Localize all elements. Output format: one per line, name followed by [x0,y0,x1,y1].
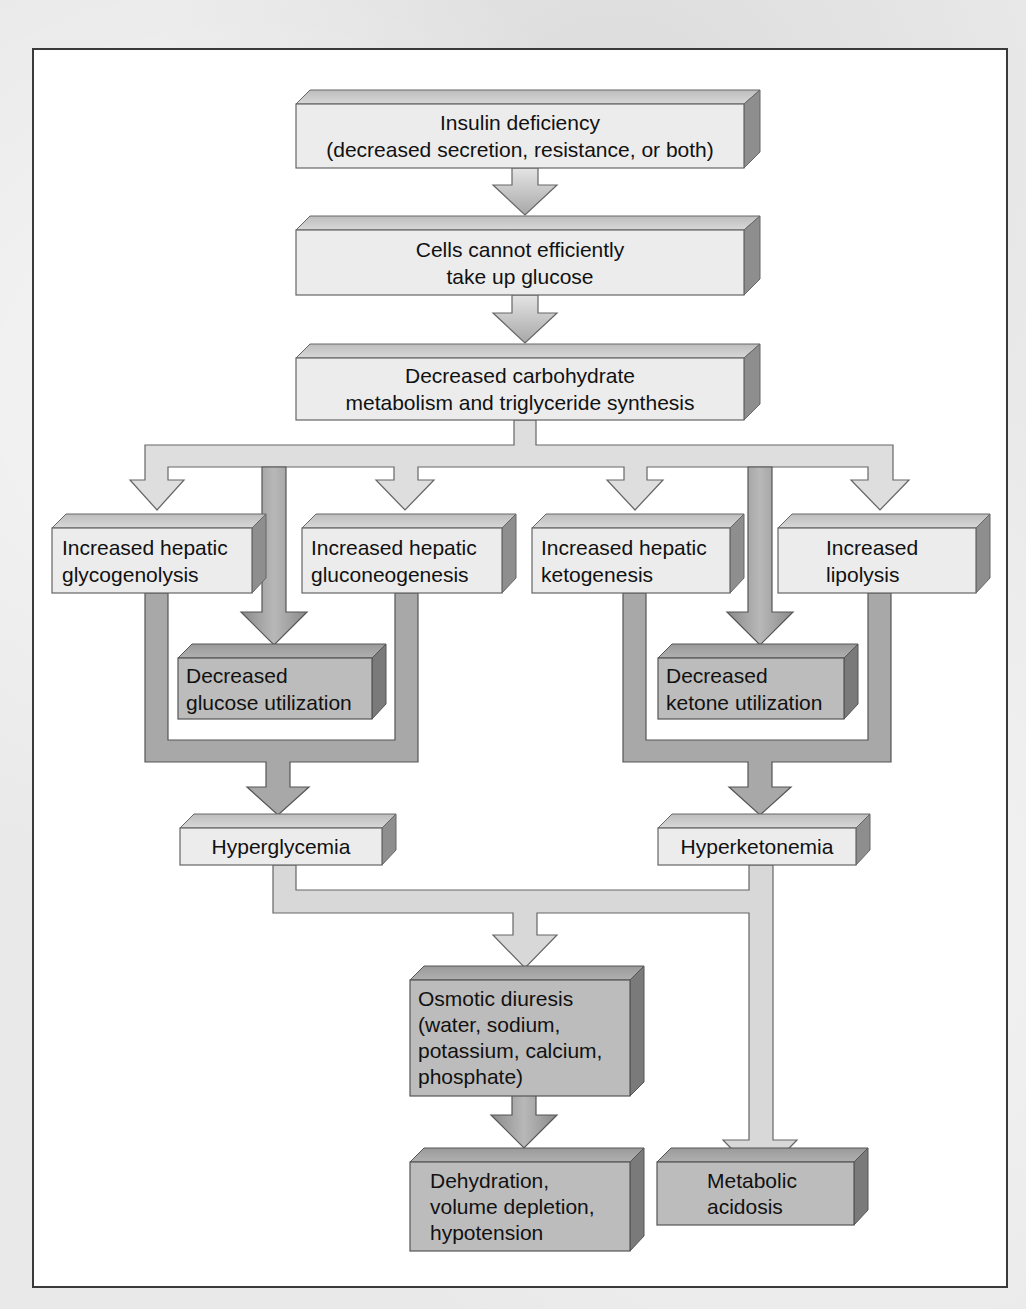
node-text: metabolism and triglyceride synthesis [346,389,695,416]
node-text: lipolysis [826,561,976,588]
arrow-insulin-to-cells [493,168,557,215]
node-text: ketogenesis [541,561,730,588]
node-text: glycogenolysis [62,561,252,588]
branch-connector-top [130,420,909,510]
node-dehydration: Dehydration, volume depletion, hypotensi… [410,1162,630,1251]
node-text: Decreased [666,662,844,689]
node-text: Hyperglycemia [212,833,351,860]
node-text: Metabolic [707,1168,854,1194]
node-text: Decreased [186,662,372,689]
node-hyperglycemia: Hyperglycemia [180,828,382,865]
node-text: volume depletion, [430,1194,630,1220]
node-text: ketone utilization [666,689,844,716]
node-decreased-carb-metabolism: Decreased carbohydrate metabolism and tr… [296,358,744,420]
node-text: (water, sodium, [418,1012,630,1038]
node-osmotic-diuresis: Osmotic diuresis (water, sodium, potassi… [410,980,630,1096]
node-text: (decreased secretion, resistance, or bot… [326,136,714,163]
node-text: phosphate) [418,1064,630,1090]
node-text: Decreased carbohydrate [405,362,635,389]
node-text: acidosis [707,1194,854,1220]
node-text: take up glucose [446,263,593,290]
node-hepatic-glycogenolysis: Increased hepatic glycogenolysis [52,528,252,593]
node-text: Increased hepatic [541,534,730,561]
node-text: Increased hepatic [311,534,502,561]
flowchart-canvas [0,0,1026,1309]
node-text: Osmotic diuresis [418,986,630,1012]
node-decreased-ketone-utilization: Decreased ketone utilization [658,658,844,719]
node-text: Insulin deficiency [440,109,600,136]
arrow-osmotic-to-dehydration [491,1095,557,1148]
node-text: Dehydration, [430,1168,630,1194]
node-hyperketonemia: Hyperketonemia [658,828,856,865]
node-text: gluconeogenesis [311,561,502,588]
node-text: Increased [826,534,976,561]
node-hepatic-gluconeogenesis: Increased hepatic gluconeogenesis [302,528,502,593]
node-increased-lipolysis: Increased lipolysis [778,528,976,593]
node-insulin-deficiency: Insulin deficiency (decreased secretion,… [296,104,744,168]
node-text: Cells cannot efficiently [416,236,625,263]
node-text: hypotension [430,1220,630,1246]
node-text: Increased hepatic [62,534,252,561]
node-cells-cannot-uptake: Cells cannot efficiently take up glucose [296,230,744,295]
node-text: potassium, calcium, [418,1038,630,1064]
node-decreased-glucose-utilization: Decreased glucose utilization [178,658,372,719]
node-metabolic-acidosis: Metabolic acidosis [657,1162,854,1225]
node-text: glucose utilization [186,689,372,716]
node-hepatic-ketogenesis: Increased hepatic ketogenesis [532,528,730,593]
node-text: Hyperketonemia [681,833,834,860]
arrow-cells-to-carb [493,295,557,343]
